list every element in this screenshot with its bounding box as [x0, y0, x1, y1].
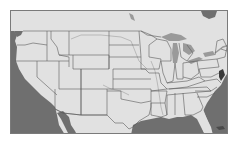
us-states-map[interactable] — [10, 10, 228, 134]
map-canvas — [11, 11, 228, 134]
